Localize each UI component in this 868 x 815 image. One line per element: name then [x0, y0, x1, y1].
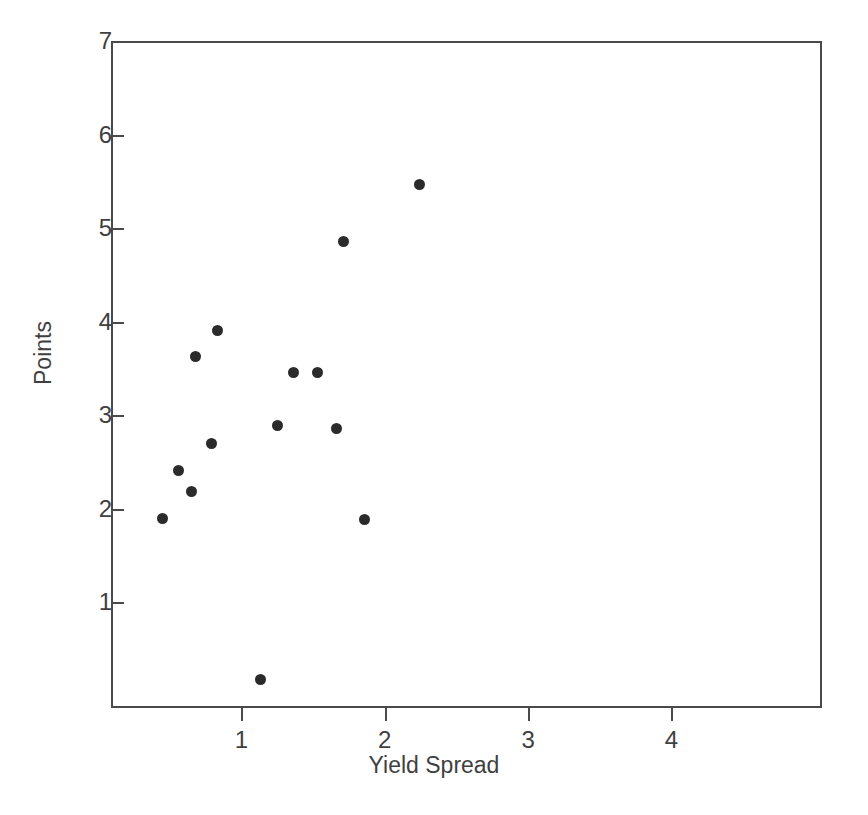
- data-point: [186, 486, 197, 497]
- y-axis-tick-label: 7: [72, 29, 112, 53]
- data-point: [359, 514, 370, 525]
- data-point: [212, 325, 223, 336]
- x-axis-tick: [241, 708, 243, 721]
- data-point: [338, 236, 349, 247]
- y-axis-tick-label: 3: [72, 403, 112, 427]
- data-point: [206, 438, 217, 449]
- y-axis-tick: [111, 415, 124, 417]
- x-axis-tick: [671, 708, 673, 721]
- y-axis-tick: [111, 135, 124, 137]
- y-axis-tick-label: 1: [72, 590, 112, 614]
- data-point: [272, 420, 283, 431]
- y-axis-tick: [111, 228, 124, 230]
- x-axis-tick: [385, 708, 387, 721]
- data-point: [312, 367, 323, 378]
- data-point: [331, 423, 342, 434]
- y-axis-tick-label: 6: [72, 123, 112, 147]
- data-point: [157, 513, 168, 524]
- x-axis-tick: [528, 708, 530, 721]
- data-point: [288, 367, 299, 378]
- scatter-plot-figure: 1234567 1234 Points Yield Spread: [0, 0, 868, 815]
- x-axis-tick-label: 2: [355, 727, 415, 753]
- data-point: [255, 674, 266, 685]
- y-axis-tick-label: 5: [72, 216, 112, 240]
- x-axis-title: Yield Spread: [0, 752, 868, 778]
- y-axis-tick: [111, 509, 124, 511]
- x-axis-tick-label: 3: [498, 727, 558, 753]
- data-point: [173, 465, 184, 476]
- plot-area: [111, 41, 822, 708]
- y-axis-tick: [111, 322, 124, 324]
- x-axis-tick-label: 1: [211, 727, 271, 753]
- data-point: [190, 351, 201, 362]
- y-axis-title: Points: [30, 273, 56, 433]
- data-point: [414, 179, 425, 190]
- y-axis-tick-label: 4: [72, 310, 112, 334]
- x-axis-tick-label: 4: [641, 727, 701, 753]
- y-axis-tick: [111, 602, 124, 604]
- y-axis-tick-label: 2: [72, 497, 112, 521]
